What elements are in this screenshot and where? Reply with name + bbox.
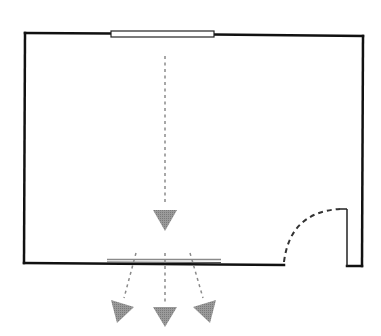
left-wall [24,33,25,263]
top-wall-left [25,33,111,34]
floor-plan-diagram [0,0,381,336]
door-with-swing-arc [284,209,347,266]
floor-plan-svg [0,0,381,336]
door-swing-arc [284,209,340,262]
window-bottom [107,260,221,263]
room-walls [24,33,363,266]
window-top [111,31,214,37]
arrow-down-center [153,56,177,231]
bottom-wall [24,263,284,265]
right-wall [362,36,363,266]
top-wall-right [214,35,363,37]
